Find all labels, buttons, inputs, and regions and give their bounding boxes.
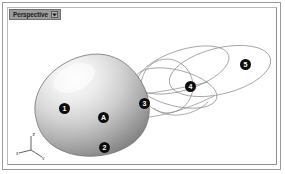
callout-marker-a[interactable]: A: [98, 112, 109, 123]
callout-marker-4[interactable]: 4: [185, 81, 196, 92]
axis-line-y: [31, 150, 42, 157]
axis-label-x: x: [16, 150, 19, 156]
axis-label-z: z: [33, 131, 36, 137]
world-axis-tripod: z x y: [16, 130, 50, 160]
spline-group: [131, 36, 276, 118]
viewport-label-chip[interactable]: Perspective: [9, 9, 61, 20]
callout-marker-2[interactable]: 2: [99, 142, 110, 153]
dropdown-caret-icon[interactable]: [51, 11, 58, 18]
viewport-label-text: Perspective: [13, 10, 48, 19]
viewport-3d-scene[interactable]: 1 2 3 4 5 A z x y: [8, 8, 277, 165]
axis-label-y: y: [42, 155, 45, 161]
shaded-blob-surface: [35, 54, 149, 156]
callout-marker-1[interactable]: 1: [59, 103, 70, 114]
callout-marker-5[interactable]: 5: [240, 59, 251, 70]
perspective-viewport[interactable]: 1 2 3 4 5 A z x y: [7, 7, 277, 165]
callout-marker-3[interactable]: 3: [139, 98, 150, 109]
axis-line-x: [19, 150, 31, 153]
screenshot-root: 1 2 3 4 5 A z x y P: [0, 0, 285, 174]
